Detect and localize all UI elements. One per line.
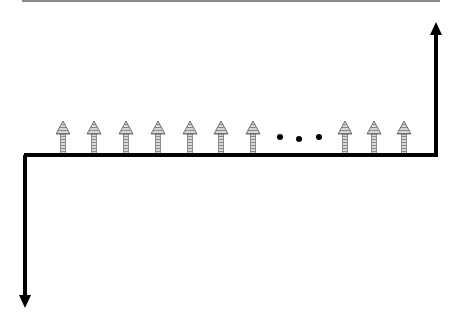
small-up-arrow-icon (151, 121, 165, 155)
small-up-arrow-icon (338, 121, 352, 155)
small-up-arrow-icon (367, 121, 381, 155)
small-up-arrow-icon (183, 121, 197, 155)
outflow-down-arrow-icon (19, 155, 31, 308)
small-up-arrows (56, 121, 411, 155)
large-inflow-up-arrow-icon (430, 22, 442, 157)
small-up-arrow-icon (119, 121, 133, 155)
ellipsis (277, 134, 322, 142)
ellipsis-dot (296, 136, 302, 142)
cash-flow-diagram (0, 0, 460, 320)
small-up-arrow-icon (397, 121, 411, 155)
ellipsis-dot (316, 134, 322, 140)
ellipsis-dot (277, 134, 283, 140)
small-up-arrow-icon (214, 121, 228, 155)
small-up-arrow-icon (87, 121, 101, 155)
small-up-arrow-icon (56, 121, 70, 155)
small-up-arrow-icon (246, 121, 260, 155)
